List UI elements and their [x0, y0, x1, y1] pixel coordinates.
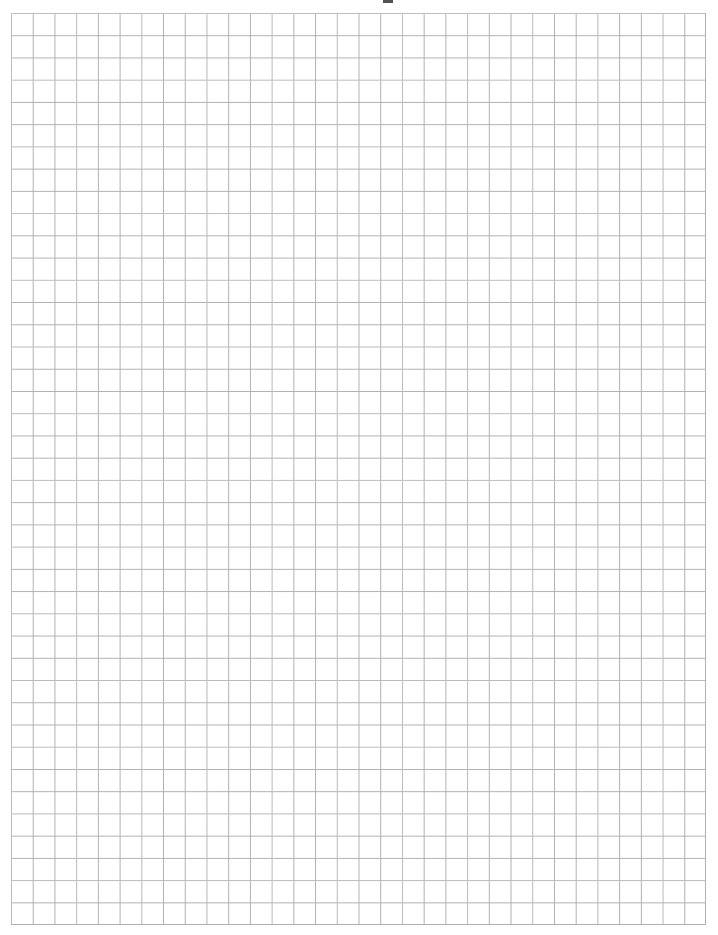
grid-border-bottom [11, 924, 706, 925]
page-margin-left [0, 0, 11, 935]
grid-border-right [705, 13, 706, 925]
grid-texture-overlay [11, 13, 706, 925]
page-margin-right [706, 0, 718, 935]
page-margin-bottom [0, 925, 718, 935]
page-margin-top [0, 0, 718, 13]
scan-artifact-mark [383, 0, 393, 3]
graph-paper-page: Blank printable square-grid graph paper … [0, 0, 718, 935]
graph-paper-grid [11, 13, 706, 925]
